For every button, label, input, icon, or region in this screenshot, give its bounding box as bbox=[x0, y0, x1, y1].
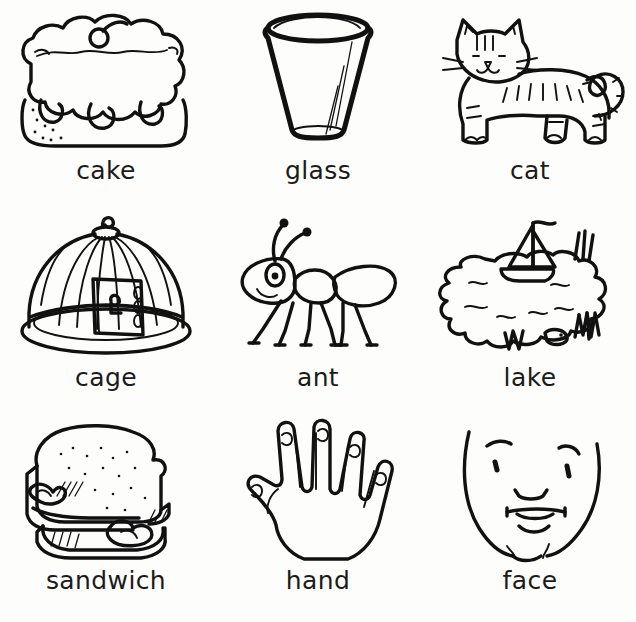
card-label-hand: hand bbox=[286, 568, 350, 593]
sandwich-illustration bbox=[0, 410, 212, 562]
card-hand[interactable]: hand bbox=[212, 410, 424, 622]
face-illustration bbox=[424, 410, 636, 562]
card-label-cage: cage bbox=[75, 365, 137, 390]
card-face[interactable]: face bbox=[424, 410, 636, 622]
hand-illustration bbox=[212, 410, 424, 562]
card-cat[interactable]: cat bbox=[424, 0, 636, 205]
picture-word-sheet: cake glass bbox=[0, 0, 636, 622]
card-cage[interactable]: cage bbox=[0, 205, 212, 410]
card-cake[interactable]: cake bbox=[0, 0, 212, 205]
card-sandwich[interactable]: sandwich bbox=[0, 410, 212, 622]
card-label-ant: ant bbox=[297, 365, 339, 390]
card-ant[interactable]: ant bbox=[212, 205, 424, 410]
lake-illustration bbox=[424, 205, 636, 357]
card-glass[interactable]: glass bbox=[212, 0, 424, 205]
card-label-cake: cake bbox=[76, 158, 136, 183]
card-label-face: face bbox=[503, 568, 558, 593]
card-label-lake: lake bbox=[504, 365, 557, 390]
cake-illustration bbox=[0, 0, 212, 152]
card-label-cat: cat bbox=[510, 158, 550, 183]
card-label-sandwich: sandwich bbox=[46, 568, 166, 593]
card-lake[interactable]: lake bbox=[424, 205, 636, 410]
ant-illustration bbox=[212, 205, 424, 357]
cat-illustration bbox=[424, 0, 636, 152]
glass-illustration bbox=[212, 0, 424, 152]
card-label-glass: glass bbox=[285, 158, 351, 183]
cage-illustration bbox=[0, 205, 212, 357]
